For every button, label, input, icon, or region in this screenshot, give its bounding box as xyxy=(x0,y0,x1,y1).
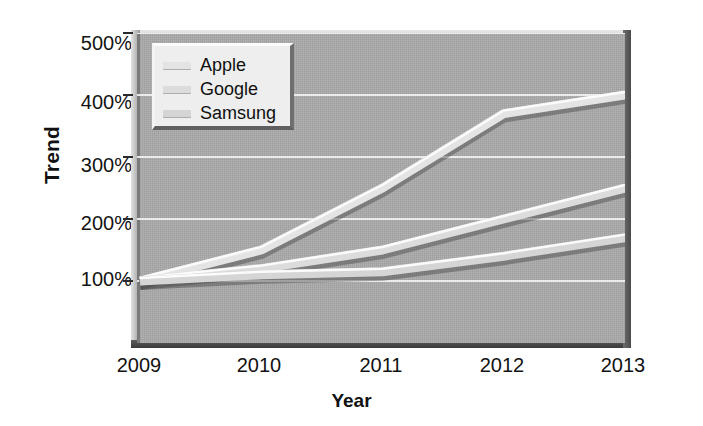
y-tick-label-300: 300% xyxy=(52,155,132,175)
x-tick-label-2011: 2011 xyxy=(336,352,426,378)
x-tick-label-2013: 2013 xyxy=(578,352,668,378)
legend-swatch-google xyxy=(163,86,191,93)
legend-item-apple[interactable]: Apple xyxy=(163,53,284,77)
y-tick-mark-400 xyxy=(123,94,133,96)
x-axis-tick-labels: 2009 2010 2011 2012 2013 xyxy=(0,352,703,384)
legend-label-apple: Apple xyxy=(200,54,246,76)
y-tick-mark-200 xyxy=(123,218,133,220)
y-tick-label-400: 400% xyxy=(52,92,132,112)
y-tick-mark-100 xyxy=(123,280,133,282)
y-tick-label-500: 500% xyxy=(52,33,132,53)
line-chart: Trend 500% 400% 300% 200% 100% Apple Goo… xyxy=(0,0,703,426)
x-tick-label-2009: 2009 xyxy=(94,352,184,378)
y-tick-label-200: 200% xyxy=(52,213,132,233)
legend-swatch-samsung xyxy=(163,110,191,117)
legend-swatch-apple xyxy=(163,62,191,69)
y-tick-label-100: 100% xyxy=(52,269,132,289)
legend-item-samsung[interactable]: Samsung xyxy=(163,101,284,125)
x-tick-label-2010: 2010 xyxy=(214,352,304,378)
legend-label-samsung: Samsung xyxy=(200,102,276,124)
y-tick-mark-500 xyxy=(123,32,133,34)
legend-label-google: Google xyxy=(200,78,258,100)
legend: Apple Google Samsung xyxy=(152,43,294,130)
x-axis-title: Year xyxy=(0,390,703,412)
x-tick-label-2012: 2012 xyxy=(457,352,547,378)
legend-item-google[interactable]: Google xyxy=(163,77,284,101)
y-tick-mark-300 xyxy=(123,156,133,158)
